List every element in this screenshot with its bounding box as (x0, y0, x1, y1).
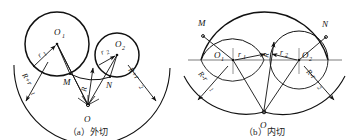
panel-internal-tangency: M N O 1 O 2 O r 1 r 2 R (176, 0, 353, 140)
line-O1-O (57, 44, 88, 105)
label-R-plus-r2: R+r 2 (125, 65, 148, 90)
label-R-minus-r1: R-r 1 (195, 69, 218, 93)
diagram-b-svg: M N O 1 O 2 O r 1 r 2 R (176, 0, 353, 140)
label-M: M (197, 18, 206, 28)
label-r2-sub: 2 (285, 52, 288, 58)
label-Rr1-text: R+r (20, 71, 35, 87)
label-O2-text: O (115, 39, 122, 49)
line-O-O2 (264, 60, 299, 112)
label-R-plus-r1: R+r 1 (19, 71, 40, 97)
label-r1-sub: 1 (243, 54, 246, 60)
label-O2: O 2 (302, 50, 312, 62)
caption-a: （a）外切 (0, 125, 176, 138)
caption-a-text: （a）外切 (68, 127, 109, 137)
panel-external-tangency: O 1 O 2 M N O r 1 r 2 R (0, 0, 176, 140)
label-R-text: R (79, 86, 89, 93)
label-R: R (261, 52, 271, 60)
label-Rr2-sub: 2 (138, 84, 145, 90)
lower-left-arc (184, 76, 264, 114)
dim-arrow-r2 (99, 56, 115, 65)
label-O1-sub: 1 (221, 56, 224, 62)
label-r2: r 2 (99, 45, 111, 57)
label-R: R (79, 86, 89, 93)
label-r1: r 1 (35, 47, 48, 60)
caption-b: （b）内切 (176, 125, 353, 138)
label-r1-text: r (238, 50, 241, 59)
lower-right-arc (264, 76, 345, 114)
label-r2-text: r (99, 47, 106, 56)
label-O1-text: O (214, 50, 221, 60)
label-N: N (105, 80, 113, 90)
label-R-text: R (261, 52, 271, 60)
label-O2-sub: 2 (122, 45, 125, 51)
label-r2-text: r (280, 48, 283, 57)
label-Rr1-sub: 1 (30, 91, 37, 97)
diagram-a-svg: O 1 O 2 M N O r 1 r 2 R (0, 0, 176, 140)
label-O2-text: O (302, 50, 309, 60)
label-O1-sub: 1 (62, 33, 65, 39)
label-N: N (321, 19, 329, 29)
label-O1: O 1 (54, 27, 65, 39)
label-O: O (84, 114, 91, 124)
label-O2-sub: 2 (309, 56, 312, 62)
label-r2-sub: 2 (105, 49, 110, 56)
label-Rr2-sub: 2 (316, 84, 322, 90)
label-O2: O 2 (115, 39, 125, 51)
figure-container: O 1 O 2 M N O r 1 r 2 R (0, 0, 353, 140)
circle-arc-r1-lower (201, 60, 264, 81)
caption-b-text: （b）内切 (244, 127, 286, 137)
label-O1-text: O (54, 27, 61, 37)
label-M: M (62, 77, 71, 87)
